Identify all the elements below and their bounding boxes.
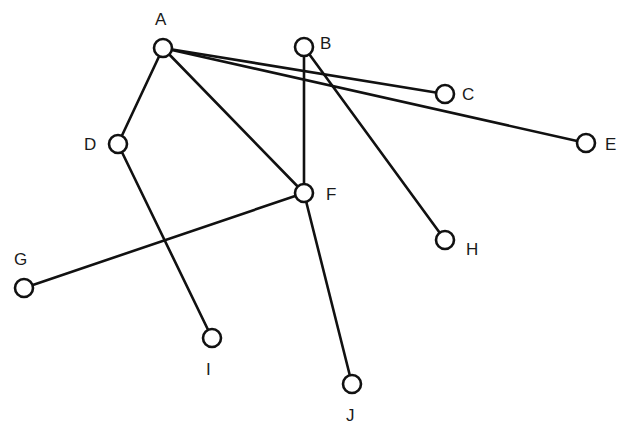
node-label-i: I bbox=[206, 360, 211, 379]
node-label-g: G bbox=[14, 250, 27, 269]
node-label-c: C bbox=[462, 85, 474, 104]
node-label-d: D bbox=[84, 135, 96, 154]
node-b bbox=[295, 38, 313, 56]
node-h bbox=[436, 231, 454, 249]
edge-f-j bbox=[304, 193, 352, 384]
edge-a-e bbox=[163, 48, 586, 143]
node-label-h: H bbox=[466, 240, 478, 259]
node-j bbox=[343, 375, 361, 393]
node-d bbox=[109, 135, 127, 153]
node-label-a: A bbox=[155, 10, 167, 29]
node-e bbox=[577, 134, 595, 152]
graph-diagram: ABCDEFGHIJ bbox=[0, 0, 626, 433]
node-label-f: F bbox=[326, 185, 336, 204]
node-label-e: E bbox=[605, 135, 616, 154]
node-a bbox=[154, 39, 172, 57]
edge-b-h bbox=[304, 47, 445, 240]
edges-layer bbox=[24, 47, 586, 384]
node-c bbox=[436, 85, 454, 103]
node-label-b: B bbox=[320, 34, 331, 53]
node-label-j: J bbox=[346, 406, 355, 425]
node-i bbox=[203, 329, 221, 347]
edge-a-d bbox=[118, 48, 163, 144]
node-g bbox=[15, 279, 33, 297]
edge-a-f bbox=[163, 48, 304, 193]
node-f bbox=[295, 184, 313, 202]
edge-f-g bbox=[24, 193, 304, 288]
